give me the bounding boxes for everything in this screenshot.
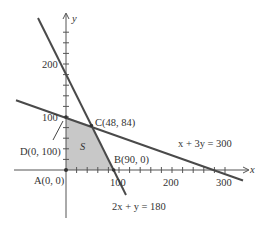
y-axis-label: y: [71, 13, 77, 24]
x-tick-300: 300: [216, 177, 232, 188]
equation-2x-y-label: 2x + y = 180: [112, 201, 166, 212]
point-c: [90, 124, 94, 128]
point-d: [64, 115, 68, 119]
x-tick-200: 200: [163, 177, 179, 188]
point-d-label: D(0, 100): [20, 146, 61, 158]
point-a: [64, 168, 68, 172]
x-tick-100: 100: [110, 177, 126, 188]
equation-x-3y-label: x + 3y = 300: [178, 138, 232, 149]
point-c-label: C(48, 84): [95, 117, 136, 129]
point-a-label: A(0, 0): [34, 175, 65, 187]
x-axis-label: x: [249, 164, 255, 175]
y-tick-100: 100: [42, 112, 58, 123]
region-s-label: S: [80, 141, 86, 152]
point-b-label: B(90, 0): [114, 154, 150, 166]
point-b: [112, 168, 116, 172]
d-pointer-line: [53, 121, 63, 140]
y-tick-200: 200: [42, 59, 58, 70]
linear-programming-diagram: y x 200 100 100 200 300 C(48, 84) D(0, 1…: [0, 0, 268, 226]
